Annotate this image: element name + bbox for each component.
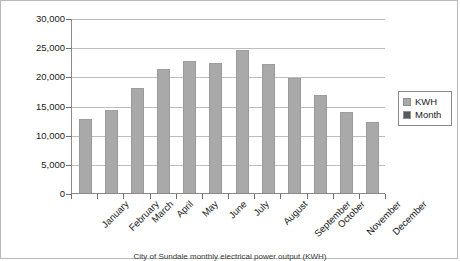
x-axis-tick-label: August (282, 199, 310, 227)
y-axis-tick-label: 0 (60, 189, 65, 199)
x-axis-tick-label: June (227, 199, 249, 221)
x-axis-tick-mark (280, 194, 281, 199)
legend-swatch-kwh (403, 98, 411, 106)
x-axis-tick-mark (307, 194, 308, 199)
bar[interactable] (340, 112, 353, 193)
gridline (72, 136, 385, 137)
bar[interactable] (262, 64, 275, 194)
x-axis-tick-mark (385, 194, 386, 199)
y-axis-tick-label: 20,000 (36, 72, 65, 82)
x-axis-tick-label: July (252, 199, 271, 218)
bar[interactable] (236, 50, 249, 193)
y-axis-tick-label: 10,000 (36, 131, 65, 141)
x-axis-tick-mark (97, 194, 98, 199)
bar[interactable] (105, 110, 118, 193)
bar[interactable] (131, 88, 144, 193)
chart-legend: KWH Month (398, 91, 452, 126)
x-axis-tick-label: April (174, 199, 195, 220)
legend-label-month: Month (415, 109, 441, 120)
y-axis-tick-label: 25,000 (36, 43, 65, 53)
legend-entry-month[interactable]: Month (403, 108, 451, 121)
bar[interactable] (183, 61, 196, 193)
bar[interactable] (314, 95, 327, 193)
x-axis-tick-mark (176, 194, 177, 199)
x-axis-tick-mark (202, 194, 203, 199)
x-axis-tick-mark (71, 194, 72, 199)
x-axis-tick-mark (333, 194, 334, 199)
gridline (72, 107, 385, 108)
bar[interactable] (366, 122, 379, 193)
bar[interactable] (79, 119, 92, 193)
gridline (72, 19, 385, 20)
x-axis-tick-mark (150, 194, 151, 199)
legend-entry-kwh[interactable]: KWH (403, 95, 451, 108)
gridline (72, 48, 385, 49)
legend-label-kwh: KWH (415, 96, 437, 107)
bar[interactable] (209, 63, 222, 193)
gridline (72, 165, 385, 166)
y-axis-tick-label: 5,000 (41, 160, 65, 170)
chart-caption: City of Sundale monthly electrical power… (0, 252, 460, 261)
y-axis-tick-label: 15,000 (36, 102, 65, 112)
bar[interactable] (157, 69, 170, 193)
bar-chart: 30,00025,00020,00015,00010,0005,0000 Jan… (0, 0, 460, 261)
bar[interactable] (288, 78, 301, 194)
gridline (72, 77, 385, 78)
x-axis-tick-mark (228, 194, 229, 199)
legend-swatch-month (403, 111, 411, 119)
x-axis-tick-mark (254, 194, 255, 199)
x-axis-tick-label: May (200, 199, 220, 219)
plot-area (71, 19, 385, 194)
y-axis-tick-label: 30,000 (36, 14, 65, 24)
